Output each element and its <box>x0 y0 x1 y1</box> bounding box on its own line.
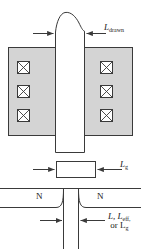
contact-via <box>18 62 30 74</box>
gate-rect <box>57 162 96 178</box>
label-n-right: N <box>97 192 104 201</box>
gate-polysilicon-stripe <box>56 12 85 152</box>
contact-via-group-right <box>101 62 113 122</box>
contact-via <box>101 86 113 98</box>
label-n-left: N <box>36 192 43 201</box>
label-l-eff-line2-sub: g <box>125 225 128 231</box>
label-l-drawn: Ldrawn <box>104 23 124 32</box>
junction-profile-right <box>79 189 142 208</box>
panel-gate-rectangle <box>33 162 122 178</box>
contact-via <box>18 86 30 98</box>
contact-via <box>101 62 113 74</box>
label-l-drawn-sub: drawn <box>109 27 124 33</box>
junction-profile-left <box>0 189 64 208</box>
contact-via <box>18 110 30 122</box>
panel-layout-top-view <box>9 12 133 152</box>
label-l-eff: L, Leff,or Lg <box>108 212 131 231</box>
contact-via-group-left <box>18 62 30 122</box>
label-l-g-sub: g <box>125 164 128 170</box>
contact-via <box>101 110 113 122</box>
label-l-eff-line1-sub: eff, <box>123 216 131 222</box>
label-l-g: Lg <box>120 160 128 169</box>
